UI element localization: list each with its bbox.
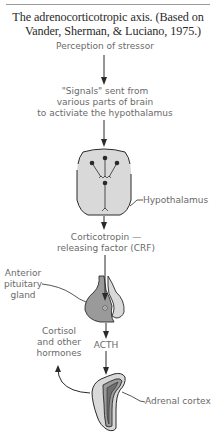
step-crf-line-1: Corticotropin —	[0, 232, 212, 243]
label-adrenal-cortex: Adrenal cortex	[145, 396, 211, 407]
arrow-down-icon	[101, 216, 107, 230]
step-perception-of-stressor: Perception of stressor	[0, 41, 210, 52]
curved-arrow-icon	[55, 365, 90, 393]
step-signals-line-1: "Signals" sent from	[0, 86, 210, 97]
label-pituitary-line-2: pituitary	[0, 279, 46, 290]
arrow-down-icon	[103, 323, 109, 339]
step-signals: "Signals" sent from various parts of bra…	[0, 86, 210, 119]
arrow-down-icon	[101, 55, 107, 85]
label-hypothalamus: Hypothalamus	[143, 195, 208, 206]
pituitary-leader-line	[42, 284, 86, 302]
hypothalamus-leader-line	[130, 200, 143, 206]
adrenal-leader-line	[122, 392, 145, 402]
label-cortisol-line-2: and other	[36, 337, 82, 348]
hypothalamus-organ-icon	[77, 149, 131, 215]
step-crf-line-2: releasing factor (CRF)	[0, 243, 212, 254]
label-cortisol: Cortisol and other hormones	[36, 326, 82, 359]
diagram-graphics	[0, 0, 216, 436]
label-cortisol-line-1: Cortisol	[36, 326, 82, 337]
adrenal-gland-icon	[92, 373, 125, 430]
label-pituitary-line-3: gland	[0, 290, 46, 301]
step-signals-line-2: various parts of brain	[0, 97, 210, 108]
step-signals-line-3: to activiate the hypothalamus	[0, 108, 210, 119]
arrow-down-icon	[103, 351, 109, 375]
step-crf: Corticotropin — releasing factor (CRF)	[0, 232, 212, 254]
label-cortisol-line-3: hormones	[36, 348, 82, 359]
arrow-down-icon	[101, 120, 107, 147]
label-anterior-pituitary: Anterior pituitary gland	[0, 268, 46, 301]
step-acth: ACTH	[86, 340, 126, 351]
label-pituitary-line-1: Anterior	[0, 268, 46, 279]
